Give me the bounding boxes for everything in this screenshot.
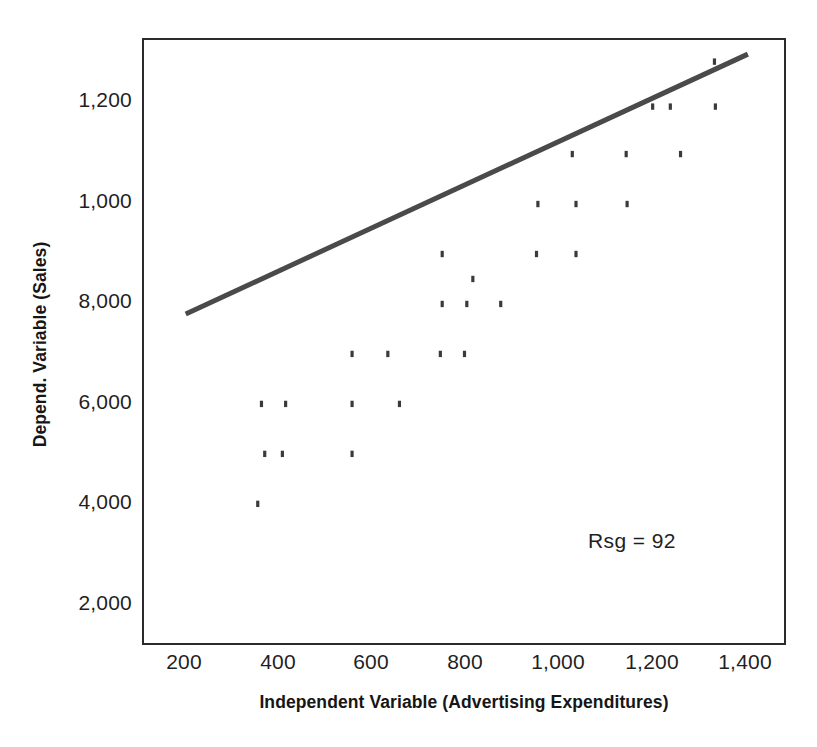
x-axis-tick-labels: 200 400 600 800 1,000 1,200 1,400 [0, 0, 817, 747]
r-squared-annotation: Rsg = 92 [588, 529, 676, 553]
x-axis-title: Independent Variable (Advertising Expend… [142, 692, 786, 713]
y-axis-title: Depend. Variable (Sales) [30, 25, 51, 665]
scatter-plot-figure: 1,200 1,000 8,000 6,000 4,000 2,000 200 … [0, 0, 817, 747]
x-tick-label-1400: 1,400 [685, 650, 805, 674]
